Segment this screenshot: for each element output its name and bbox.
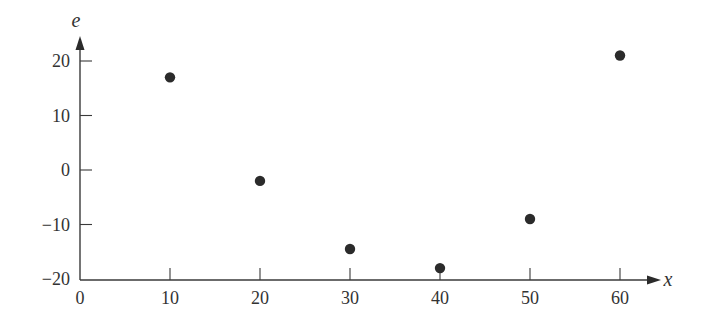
data-point <box>255 176 265 186</box>
x-axis-label: x <box>663 268 673 290</box>
data-point <box>345 244 355 254</box>
x-tick-label: 40 <box>431 288 449 308</box>
y-axis-arrow-icon <box>76 36 85 50</box>
data-point <box>165 72 175 82</box>
x-tick-label: 20 <box>251 288 269 308</box>
y-axis-label: e <box>72 9 81 31</box>
x-tick-label: 30 <box>341 288 359 308</box>
x-tick-label: 10 <box>161 288 179 308</box>
y-ticks: −20−1001020 <box>42 51 92 289</box>
data-point <box>525 214 535 224</box>
x-ticks: 0102030405060 <box>76 268 630 308</box>
data-point <box>615 50 625 60</box>
y-tick-label: −10 <box>42 215 70 235</box>
y-tick-label: −20 <box>42 269 70 289</box>
x-axis-arrow-icon <box>647 276 661 285</box>
data-point <box>435 263 445 273</box>
data-points <box>165 50 625 273</box>
scatter-chart: e x 0102030405060 −20−1001020 <box>0 0 707 330</box>
x-tick-label: 60 <box>611 288 629 308</box>
y-tick-label: 20 <box>52 51 70 71</box>
y-tick-label: 0 <box>61 160 70 180</box>
x-tick-label: 50 <box>521 288 539 308</box>
x-tick-label: 0 <box>76 288 85 308</box>
axes: e x <box>72 9 673 290</box>
y-tick-label: 10 <box>52 106 70 126</box>
